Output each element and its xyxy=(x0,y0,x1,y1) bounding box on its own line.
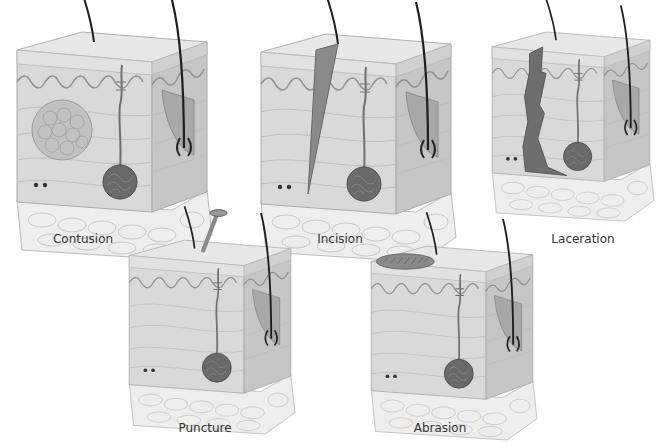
caption-puncture: Puncture xyxy=(150,421,260,435)
panel-puncture xyxy=(125,230,295,434)
skin-cross-section-laceration xyxy=(488,22,654,221)
skin-cross-section-puncture xyxy=(125,230,295,434)
abrasion-scrape-icon xyxy=(376,254,434,269)
caption-laceration: Laceration xyxy=(528,232,638,246)
caption-abrasion: Abrasion xyxy=(385,421,495,435)
panel-contusion xyxy=(12,20,212,260)
panel-incision xyxy=(256,22,456,262)
panel-abrasion xyxy=(367,236,537,440)
skin-cross-section-contusion xyxy=(12,20,212,260)
panel-laceration xyxy=(488,22,654,221)
skin-cross-section-incision xyxy=(256,22,456,262)
skin-cross-section-abrasion xyxy=(367,236,537,440)
contusion-bruise-icon xyxy=(32,100,92,160)
caption-contusion: Contusion xyxy=(28,232,138,246)
